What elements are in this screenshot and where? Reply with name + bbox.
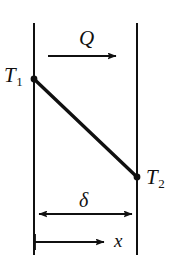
thickness-label: δ [79,190,88,210]
temperature-profile-line [34,79,137,177]
temperature-t2-subscript: 2 [158,176,165,191]
temperature-t1-subscript: 1 [16,74,23,89]
temperature-point-t2-marker [134,174,141,181]
temperature-t1-label: T1 [4,65,22,86]
x-axis-symbol: x [114,230,122,251]
heat-flow-symbol: Q [79,26,94,50]
x-axis-label: x [114,231,122,250]
temperature-t1-symbol: T [4,63,16,87]
heat-flow-label: Q [79,28,94,49]
temperature-t2-symbol: T [146,165,158,189]
conduction-wall-diagram: Q T1 T2 δ x [0,0,175,265]
thickness-symbol: δ [79,189,88,211]
temperature-point-t1-marker [31,76,38,83]
temperature-t2-label: T2 [146,167,164,188]
